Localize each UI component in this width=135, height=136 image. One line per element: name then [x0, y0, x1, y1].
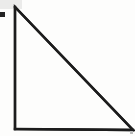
triangle-horizontal-leg: [15, 129, 133, 130]
left-edge-dot-mark: [0, 12, 5, 17]
paper-background: [0, 0, 135, 136]
figure-container: right-triangle-line-drawing: [0, 0, 135, 136]
bottom-right-speck-mark: [130, 131, 133, 134]
top-left-smudge-mark: [0, 0, 22, 9]
triangle-figure-canvas: [0, 0, 135, 136]
